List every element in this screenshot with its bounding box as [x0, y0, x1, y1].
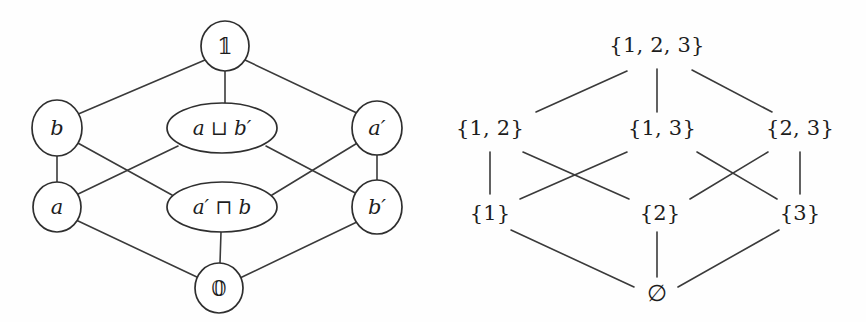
edge-a-bottom — [76, 220, 199, 278]
node-label-s23[interactable]: {2, 3} — [766, 116, 834, 140]
edge-aprime-meet — [272, 142, 359, 195]
node-label-s3[interactable]: {3} — [780, 201, 821, 225]
node-label-top: 𝟙 — [217, 34, 232, 59]
edge-s23-s2 — [690, 152, 768, 199]
edge-s13-s3 — [697, 152, 777, 199]
edge-s13-s1 — [520, 152, 627, 199]
node-label-s123[interactable]: {1, 2, 3} — [609, 33, 704, 57]
node-label-aprime: a′ — [368, 116, 385, 140]
edge-top-aprime — [245, 60, 359, 114]
node-label-s0[interactable]: ∅ — [647, 280, 667, 306]
left-diagram-edges — [57, 60, 377, 278]
node-label-s12[interactable]: {1, 2} — [456, 116, 524, 140]
edge-bprime-bottom — [240, 221, 359, 278]
edge-s3-s0 — [678, 230, 779, 287]
edge-b-meet — [76, 142, 172, 195]
edge-join-bprime — [266, 146, 361, 196]
node-label-meet: a′ ⊓ b — [193, 195, 252, 219]
edge-s1-s0 — [511, 230, 634, 287]
diagram-vector-layer — [0, 0, 866, 322]
node-label-bprime: b′ — [368, 195, 386, 219]
right-diagram-edges — [490, 69, 800, 287]
node-label-a: a — [51, 195, 64, 219]
edge-s123-s23 — [692, 70, 772, 112]
figure-canvas: 𝟙ba ⊔ b′a′aa′ ⊓ bb′𝟘 {1, 2, 3}{1, 2}{1, … — [0, 0, 866, 322]
left-diagram-node-shapes — [32, 21, 402, 313]
edge-s12-s2 — [523, 152, 629, 199]
node-label-bottom: 𝟘 — [211, 276, 226, 301]
node-label-s2[interactable]: {2} — [640, 201, 681, 225]
edge-join-a — [74, 146, 178, 196]
node-label-s1[interactable]: {1} — [470, 201, 511, 225]
edge-top-b — [76, 60, 205, 115]
node-label-b: b — [50, 116, 63, 140]
edge-s123-s12 — [536, 71, 627, 112]
edge-meet-bottom — [220, 232, 221, 263]
node-label-join: a ⊔ b′ — [193, 116, 252, 140]
node-label-s13[interactable]: {1, 3} — [628, 116, 696, 140]
